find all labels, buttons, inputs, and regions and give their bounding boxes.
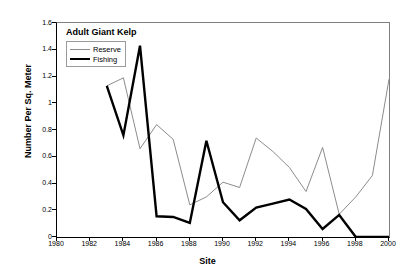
x-tick-label: 1988: [181, 240, 197, 248]
legend-line-icon-reserve: [70, 45, 90, 53]
series-line-fishing: [107, 46, 389, 237]
chart-title: Adult Giant Kelp: [66, 27, 137, 37]
x-tick-label: 1980: [48, 240, 64, 248]
x-tick-label: 1996: [314, 240, 330, 248]
x-tick-label: 1984: [115, 240, 131, 248]
legend-line-icon-fishing: [70, 55, 90, 63]
x-tick-label: 1992: [247, 240, 263, 248]
legend: Reserve Fishing: [66, 41, 126, 67]
y-tick-label: 0.6: [26, 152, 52, 159]
y-tick-label: 0.8: [26, 126, 52, 133]
y-tick-label: 1.6: [26, 19, 52, 26]
y-axis-tick-labels: 00.20.40.60.811.21.41.6: [26, 22, 52, 236]
x-tick-label: 1990: [214, 240, 230, 248]
x-tick-label: 1998: [347, 240, 363, 248]
legend-item-reserve: Reserve: [70, 44, 121, 54]
x-tick-label: 1994: [281, 240, 297, 248]
y-tick-label: 1.2: [26, 72, 52, 79]
y-tick-label: 1.4: [26, 45, 52, 52]
y-tick-label: 0.2: [26, 206, 52, 213]
chart-figure: Number Per Sq. Meter 00.20.40.60.811.21.…: [0, 0, 415, 278]
y-tick-label: 0: [26, 233, 52, 240]
legend-label-reserve: Reserve: [93, 45, 121, 54]
x-tick-label: 1982: [81, 240, 97, 248]
x-tick-label: 1986: [148, 240, 164, 248]
legend-item-fishing: Fishing: [70, 54, 121, 64]
x-tick-label: 2000: [380, 240, 396, 248]
y-tick-label: 1: [26, 99, 52, 106]
x-axis-tick-labels: 1980198219841986198819901992199419961998…: [0, 240, 415, 252]
x-axis-title: Site: [0, 256, 415, 266]
y-tick-label: 0.4: [26, 179, 52, 186]
legend-label-fishing: Fishing: [93, 55, 117, 64]
